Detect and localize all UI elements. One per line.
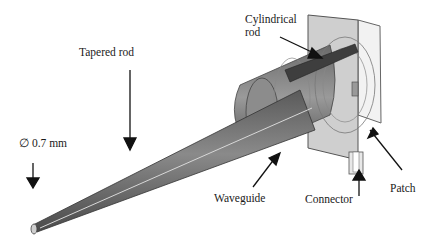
label-connector: Connector (305, 193, 353, 205)
label-cylindrical-rod-line1: Cylindrical (245, 13, 297, 25)
rod-tip (31, 224, 37, 234)
patch-plate (358, 20, 381, 123)
label-cylindrical-rod-line2: rod (245, 26, 260, 38)
label-tapered-rod: Tapered rod (79, 46, 134, 58)
label-waveguide: Waveguide (214, 192, 265, 204)
antenna-diagram: Tapered rod Cylindrical rod ∅ 0.7 mm Wav… (0, 0, 434, 248)
label-diameter: ∅ 0.7 mm (19, 137, 67, 149)
patch-element (352, 82, 358, 96)
antenna-drawing (0, 0, 434, 248)
label-patch: Patch (390, 182, 416, 194)
